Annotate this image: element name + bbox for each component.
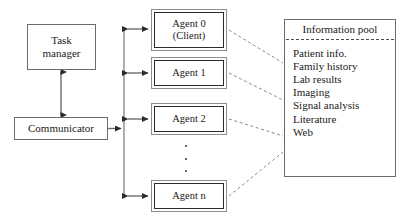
node-information-pool[interactable]: Information pool Patient info. Family hi… [284, 19, 396, 177]
connector-agent-2-information-pool [229, 119, 283, 136]
task-manager-label-line-2: manager [43, 47, 81, 60]
node-agent-0[interactable]: Agent 0 (Client) [151, 9, 227, 51]
ellipsis-dot [185, 170, 187, 172]
agent-0-label-line-1: Agent 0 [172, 18, 206, 30]
information-pool-title: Information pool [285, 20, 395, 39]
agent-list-ellipsis-icon [184, 145, 188, 172]
node-communicator[interactable]: Communicator [14, 117, 108, 140]
connector-agent-1-information-pool [229, 73, 283, 100]
agent-n-inner-frame: Agent n [154, 183, 224, 209]
information-pool-item: Literature [293, 113, 395, 126]
node-agent-n[interactable]: Agent n [151, 180, 227, 212]
agent-n-label: Agent n [172, 190, 206, 202]
task-manager-label-line-1: Task [51, 34, 72, 47]
information-pool-item: Family history [293, 60, 395, 73]
ellipsis-dot [185, 145, 187, 147]
agent-2-label: Agent 2 [172, 113, 206, 125]
agent-0-label-line-2: (Client) [173, 30, 206, 42]
connector-agent-0-information-pool [229, 30, 283, 63]
agent-1-label: Agent 1 [172, 67, 206, 79]
information-pool-list: Patient info. Family history Lab results… [285, 40, 395, 139]
agent-1-inner-frame: Agent 1 [154, 60, 224, 86]
agent-2-inner-frame: Agent 2 [154, 106, 224, 132]
diagram-canvas: Task manager Communicator Agent 0 (Clien… [0, 0, 404, 224]
node-task-manager[interactable]: Task manager [27, 24, 96, 70]
communicator-label: Communicator [28, 122, 94, 135]
node-agent-1[interactable]: Agent 1 [151, 57, 227, 89]
information-pool-item: Lab results [293, 73, 395, 86]
information-pool-item: Web [293, 126, 395, 139]
node-agent-2[interactable]: Agent 2 [151, 103, 227, 135]
information-pool-item: Signal analysis [293, 99, 395, 112]
information-pool-item: Patient info. [293, 47, 395, 60]
ellipsis-dot [185, 158, 187, 160]
agent-0-inner-frame: Agent 0 (Client) [154, 12, 224, 48]
information-pool-item: Imaging [293, 86, 395, 99]
connector-agent-n-information-pool [229, 152, 283, 196]
